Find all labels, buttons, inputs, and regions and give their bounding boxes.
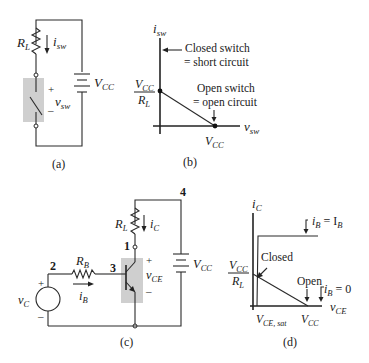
- label-ib: iB: [79, 289, 88, 305]
- label-rl-den: RL: [231, 274, 244, 290]
- arrow-down-icon: [305, 297, 310, 302]
- label-closed: Closed: [261, 251, 293, 263]
- label-vc-plus: +: [38, 277, 44, 289]
- label-vcc-x: VCC: [301, 313, 319, 328]
- label-vsw-axis: vsw: [244, 119, 259, 136]
- label-vce-minus: –: [145, 285, 152, 297]
- label-node-3: 3: [110, 261, 116, 275]
- point-open: [213, 124, 218, 129]
- panel-c-transistor-circuit: 4 RL iC 1 2 RB 3 iB + vCE – + vC – VCC (…: [18, 185, 212, 349]
- arrow-down-icon: [212, 117, 217, 122]
- arrow-left-icon: [162, 48, 168, 53]
- label-isw-axis: isw: [153, 21, 166, 38]
- label-rl: RL: [16, 35, 30, 52]
- caption-a: (a): [52, 157, 65, 171]
- annotation-closed-2: = short circuit: [184, 56, 249, 68]
- curve-ib-high: [257, 236, 318, 306]
- label-vcc: VCC: [94, 75, 115, 92]
- terminal-node-1: [133, 245, 137, 249]
- label-vcc: VCC: [193, 257, 212, 273]
- label-ib-eq-IB: iB = IB: [312, 214, 343, 230]
- label-ic: iC: [150, 217, 159, 233]
- caption-b: (b): [183, 155, 197, 169]
- label-minus: –: [47, 104, 54, 116]
- resistor-rb-icon: [72, 270, 95, 278]
- arrow-down-icon: [304, 229, 309, 234]
- label-vce-axis: vCE: [330, 300, 347, 316]
- label-vce-plus: +: [146, 254, 152, 266]
- label-rl-den: RL: [137, 93, 150, 109]
- annotation-open-1: Open switch: [197, 82, 255, 95]
- wire-bottom: [48, 280, 181, 326]
- terminal-top: [34, 73, 38, 77]
- label-vsw: vsw: [55, 94, 70, 111]
- annotation-closed-1: Closed switch: [185, 42, 250, 54]
- label-node-2: 2: [50, 259, 56, 273]
- arrow-down-icon: [319, 297, 324, 302]
- arrow-down-icon: [45, 48, 50, 54]
- label-isw: isw: [53, 34, 66, 51]
- label-vcc-num: VCC: [229, 258, 248, 274]
- terminal-bottom: [34, 124, 38, 128]
- label-ib-eq-0: iB = 0: [324, 282, 351, 298]
- battery-vcc-icon: [173, 254, 189, 280]
- label-vc-minus: –: [37, 310, 44, 322]
- panel-a-switch-circuit: RL isw + vsw – VCC (a): [16, 20, 115, 171]
- label-node-4: 4: [180, 185, 186, 199]
- label-node-1: 1: [124, 239, 130, 253]
- switch-shading: [23, 78, 44, 122]
- label-plus: +: [48, 83, 54, 95]
- arrow-right-icon: [88, 282, 94, 287]
- label-rb: RB: [75, 254, 89, 270]
- point-short: [158, 89, 163, 94]
- caption-c: (c): [120, 335, 133, 349]
- label-vcc-num: VCC: [135, 77, 154, 93]
- label-vcc-x: VCC: [205, 134, 224, 150]
- circuit-figure: RL isw + vsw – VCC (a) isw Closed switch…: [0, 0, 369, 363]
- label-vce: vCE: [146, 268, 163, 284]
- panel-d-transistor-characteristic: iC iB = IB Closed VCC RL Open iB = 0 vCE…: [228, 196, 351, 349]
- label-open: Open: [297, 275, 322, 288]
- label-ic-axis: iC: [252, 196, 263, 213]
- panel-b-switch-characteristic: isw Closed switch = short circuit VCC RL…: [134, 21, 259, 169]
- label-rl: RL: [114, 217, 128, 233]
- arrow-down-icon: [142, 226, 147, 232]
- voltage-source-vc-icon: [36, 287, 60, 311]
- label-vc: vC: [18, 293, 30, 309]
- label-vce-sat: VCE, sat: [256, 313, 287, 328]
- caption-d: (d): [283, 335, 297, 349]
- battery-vcc-icon: [74, 74, 90, 96]
- annotation-open-2: = open circuit: [193, 96, 258, 109]
